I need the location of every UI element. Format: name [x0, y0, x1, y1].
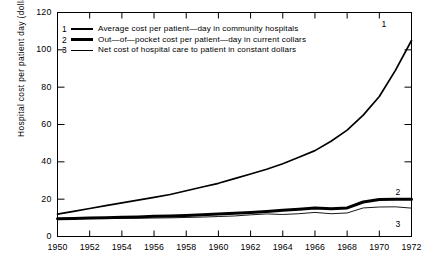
series-label-1: 1 — [382, 19, 387, 29]
legend-number: 2 — [62, 35, 71, 46]
legend-label: Average cost per patient—day in communit… — [98, 24, 299, 35]
legend-number: 1 — [62, 24, 71, 35]
legend-line-swatch — [71, 45, 93, 55]
legend-label: Net cost of hospital care to patient in … — [98, 45, 296, 56]
chart-legend: 1 Average cost per patient—day in commun… — [62, 24, 306, 56]
legend-label: Out—of—pocket cost per patient—day in cu… — [98, 35, 306, 46]
legend-line-swatch — [71, 24, 93, 34]
series-label-3: 3 — [396, 219, 401, 229]
chart-figure: Hospital cost per patient day (dollars) … — [0, 0, 423, 257]
legend-item: 2 Out—of—pocket cost per patient—day in … — [62, 35, 306, 46]
legend-item: 3 Net cost of hospital care to patient i… — [62, 45, 306, 56]
legend-item: 1 Average cost per patient—day in commun… — [62, 24, 306, 35]
legend-number: 3 — [62, 45, 71, 56]
series-label-2: 2 — [396, 187, 401, 197]
legend-line-swatch — [71, 35, 93, 45]
